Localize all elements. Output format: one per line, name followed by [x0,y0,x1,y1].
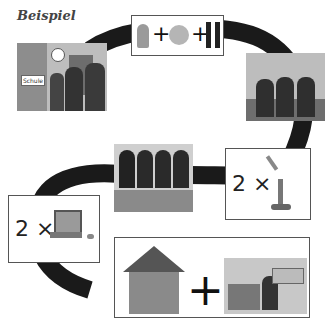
step-egypt-earth-france-card: + + [131,15,224,56]
house-icon [129,272,179,314]
sofa [272,268,304,284]
clock-icon [51,48,65,62]
count-label: 2 × [232,171,271,196]
mouse-icon [87,234,94,239]
desk [228,284,260,310]
school-sign: Schule [21,75,45,86]
step-laptop-card: 2 × [8,195,100,263]
step-bunsen-burner-card: 2 × [225,148,311,220]
bunsen-burner-icon [278,179,283,205]
laptop-icon [54,210,82,234]
burner-base [271,204,291,210]
friend-figure [276,77,294,117]
student-figure [50,73,64,111]
step-home-study-card: + [114,237,310,318]
house-roof [123,246,185,272]
step-school-image: Schule [17,43,107,111]
globe-icon [169,25,189,45]
studying-at-desk-icon [224,258,307,314]
girl-figure [119,150,135,188]
girl-figure [155,150,171,188]
friend-figure [297,77,315,117]
step-playground-image [246,53,325,121]
pharaoh-icon [137,24,149,48]
plus-operator: + [187,268,224,312]
student-figure [65,67,83,111]
test-tube-icon [266,155,278,170]
girl-figure [173,150,189,188]
france-icon [206,22,220,48]
laptop-keyboard [50,232,82,238]
count-label: 2 × [15,216,54,241]
girl-figure [137,150,153,188]
table [114,190,193,212]
student-figure [85,63,105,111]
step-girls-at-table-image [114,144,193,212]
friend-figure [256,79,274,117]
plus-operator: + [152,21,170,47]
